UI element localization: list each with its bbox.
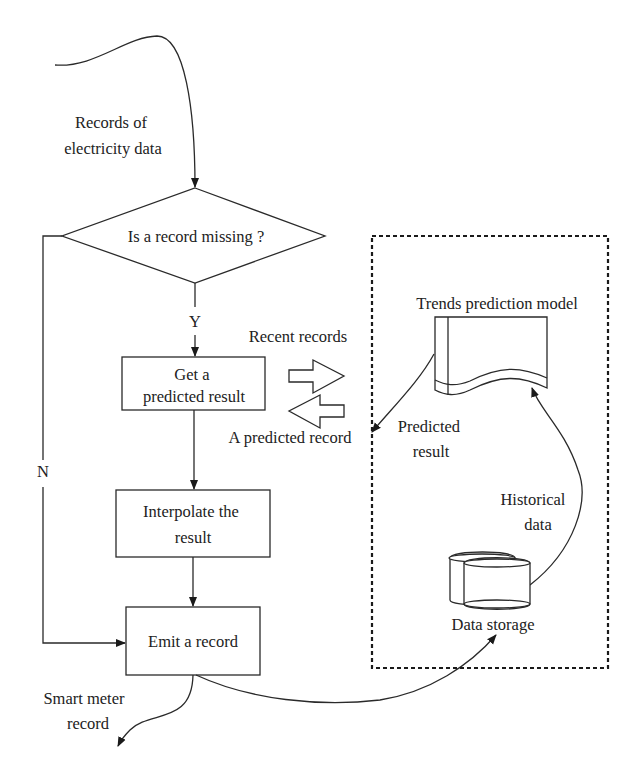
- emit-record-label: Emit a record: [148, 632, 239, 651]
- predicted-record-label: A predicted record: [229, 428, 353, 447]
- output-label: Smart meter record: [43, 689, 128, 733]
- document-icon: [435, 317, 547, 395]
- no-label: N: [37, 462, 49, 481]
- predicted-record-arrow-icon: [289, 395, 344, 428]
- decision-label: Is a record missing ?: [128, 227, 265, 246]
- no-line-top: [43, 236, 62, 460]
- historical-data-label: Historical data: [500, 490, 569, 534]
- historical-data-arrow: [530, 388, 582, 585]
- data-storage-label: Data storage: [452, 615, 535, 634]
- flowchart-canvas: Records of electricity data Is a record …: [0, 0, 643, 778]
- predicted-result-label: Predicted result: [398, 417, 464, 461]
- model-label: Trends prediction model: [416, 294, 578, 313]
- input-label: Records of electricity data: [64, 113, 162, 158]
- recent-records-label: Recent records: [249, 327, 348, 346]
- no-arrow: [43, 487, 125, 643]
- database-icon: [449, 552, 530, 609]
- output-flow-arrow: [118, 675, 193, 746]
- recent-records-arrow-icon: [289, 360, 344, 393]
- yes-label: Y: [189, 312, 201, 331]
- input-flow-arrow: [55, 36, 195, 187]
